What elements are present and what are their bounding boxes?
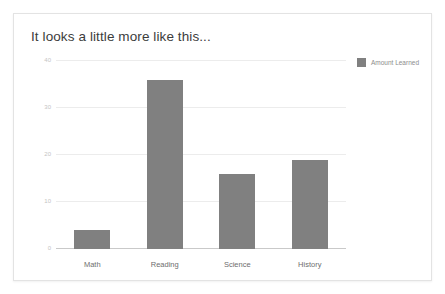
plot-area: 010203040 MathReadingScienceHistory — [56, 61, 346, 249]
bar-reading[interactable] — [147, 80, 183, 249]
y-axis-tick-label: 0 — [48, 245, 51, 251]
bar-slot: Science — [201, 61, 274, 249]
legend-swatch-amount-learned — [357, 58, 366, 67]
bar-slot: Reading — [129, 61, 202, 249]
bar-slot: Math — [56, 61, 129, 249]
bar-math[interactable] — [74, 230, 110, 249]
bar-history[interactable] — [292, 160, 328, 249]
x-axis-label-science: Science — [224, 260, 251, 269]
y-axis-tick-label: 40 — [44, 57, 51, 63]
chart-card: It looks a little more like this... Amou… — [13, 13, 432, 281]
x-axis-label-history: History — [298, 260, 321, 269]
chart-legend: Amount Learned — [357, 58, 419, 67]
bar-science[interactable] — [219, 174, 255, 249]
y-axis-tick-label: 10 — [44, 198, 51, 204]
y-axis-tick-label: 20 — [44, 151, 51, 157]
x-axis-label-reading: Reading — [151, 260, 179, 269]
bar-slot: History — [274, 61, 347, 249]
bar-group: MathReadingScienceHistory — [56, 61, 346, 249]
legend-label-amount-learned: Amount Learned — [371, 59, 419, 66]
x-axis-label-math: Math — [84, 260, 101, 269]
chart-title: It looks a little more like this... — [31, 29, 211, 44]
y-axis-tick-label: 30 — [44, 104, 51, 110]
